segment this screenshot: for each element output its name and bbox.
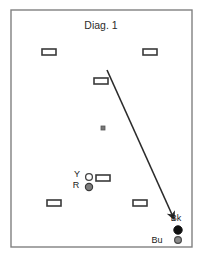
ball-yellow	[86, 174, 93, 181]
hoop-top-left	[42, 49, 56, 55]
ball-red	[85, 183, 92, 190]
ball-yellow-label: Y	[74, 169, 80, 179]
ball-blue	[175, 237, 182, 244]
ball-black	[174, 226, 182, 234]
centre-peg	[101, 126, 105, 130]
hoop-bottom-left	[47, 200, 61, 206]
ball-blue-label: Bu	[151, 235, 162, 245]
hoop-top-right	[143, 49, 157, 55]
page-title: Diag. 1	[84, 19, 117, 31]
hoop-upper-middle	[94, 78, 108, 84]
ball-black-label: Bk	[171, 213, 182, 223]
centre-peg	[101, 126, 105, 130]
diagram-figure: Diag. 1 YRBkBu	[0, 0, 206, 264]
hoop-lower-middle	[96, 175, 110, 181]
court-svg: Diag. 1 YRBkBu	[0, 0, 206, 264]
ball-red-label: R	[73, 180, 80, 190]
hoop-bottom-right	[133, 200, 147, 206]
